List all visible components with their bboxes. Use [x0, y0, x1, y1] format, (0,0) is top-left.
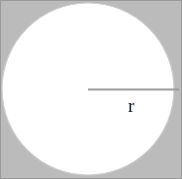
radius-label: r [128, 95, 135, 116]
diagram-canvas: r [0, 0, 182, 179]
circle-radius-diagram: r [0, 0, 182, 179]
